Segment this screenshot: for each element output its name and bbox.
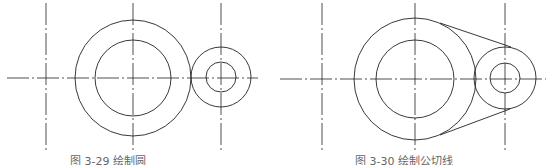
tangent-line bbox=[440, 23, 511, 47]
tangent-line bbox=[440, 109, 510, 135]
figure-caption-left: 图 3-29 绘制圆 bbox=[70, 155, 146, 165]
cad-drawing bbox=[0, 0, 546, 165]
figure-caption-right: 图 3-30 绘制公切线 bbox=[355, 155, 453, 165]
